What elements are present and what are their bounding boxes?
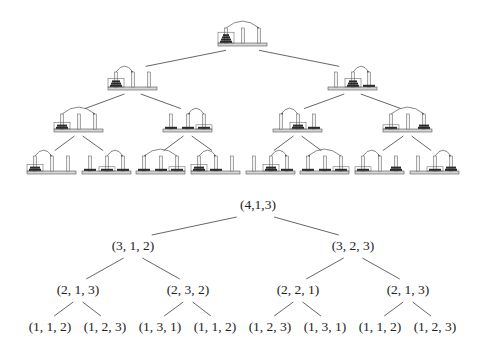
move-arrow	[107, 150, 123, 156]
disk	[357, 169, 369, 171]
disk	[347, 85, 359, 87]
disk	[138, 169, 150, 171]
tree-edge	[55, 136, 75, 151]
disk	[110, 85, 122, 87]
disk	[390, 169, 402, 171]
tree-node-label: (1, 1, 2)	[359, 319, 402, 334]
move-arrow	[144, 149, 177, 156]
disk	[220, 41, 232, 43]
peg	[450, 156, 453, 171]
tree-edge	[83, 302, 101, 316]
tree-node-label: (2, 1, 3)	[57, 282, 100, 297]
tower-base	[410, 171, 459, 174]
disk	[419, 125, 429, 127]
disk	[418, 127, 430, 129]
move-arrow	[199, 150, 216, 156]
peg	[286, 156, 289, 171]
disk	[111, 83, 121, 85]
tower-state	[54, 107, 103, 132]
tower-state	[108, 66, 157, 90]
peg	[51, 156, 54, 171]
tower-base	[218, 43, 267, 46]
disk	[56, 127, 68, 129]
disk	[266, 167, 276, 169]
tree-edge	[54, 302, 73, 316]
tree-node-label: (1, 1, 2)	[29, 319, 72, 334]
disk	[165, 127, 177, 129]
tree-edge	[152, 217, 237, 235]
tower-base	[136, 171, 185, 174]
tree-edge	[274, 217, 339, 235]
disk	[117, 169, 129, 171]
peg	[132, 72, 135, 87]
tower-base	[54, 129, 103, 132]
tower-state	[218, 21, 267, 46]
tree-edge	[192, 136, 212, 151]
tree-edge	[274, 136, 294, 151]
peg	[187, 114, 190, 129]
tower-state	[163, 108, 212, 132]
disk	[198, 127, 210, 129]
disk	[445, 169, 457, 171]
tree-node-label: (1, 3, 1)	[139, 319, 182, 334]
tree-node-label: (2, 3, 2)	[167, 282, 210, 297]
tower-base	[246, 171, 295, 174]
tree-node-label: (2, 2, 1)	[277, 282, 320, 297]
tree-edge	[362, 258, 399, 279]
peg	[89, 156, 92, 171]
peg	[280, 114, 283, 129]
disk	[391, 167, 401, 169]
disk	[155, 169, 167, 171]
disk	[193, 169, 205, 171]
tree-node-label: (4,1,3)	[240, 197, 276, 212]
peg	[335, 72, 338, 87]
disk	[335, 169, 347, 171]
tower-base	[355, 171, 404, 174]
peg	[258, 28, 261, 43]
disk	[265, 169, 277, 171]
peg	[242, 28, 245, 43]
disk	[281, 169, 293, 171]
tower-state	[355, 150, 404, 174]
tower-base	[273, 129, 322, 132]
tree-node-label: (1, 3, 1)	[304, 319, 347, 334]
tree-edge	[304, 94, 344, 109]
peg	[423, 114, 426, 129]
disk	[292, 127, 304, 129]
tree-edge	[259, 50, 339, 66]
disk	[385, 127, 397, 129]
tower-base	[163, 129, 212, 132]
tower-state	[328, 66, 377, 90]
tower-state	[27, 150, 76, 174]
tree-edge	[146, 50, 226, 66]
tree-edge	[361, 94, 401, 109]
tower-state	[82, 150, 131, 174]
peg	[198, 156, 201, 171]
peg	[61, 114, 64, 129]
peg	[379, 156, 382, 171]
disk	[293, 125, 303, 127]
tree-edge	[83, 136, 103, 151]
tower-state	[191, 150, 240, 174]
peg	[307, 156, 310, 171]
tower-base	[27, 171, 76, 174]
tower-state	[300, 149, 349, 174]
tree-edge	[302, 136, 322, 151]
peg	[340, 156, 343, 171]
peg	[115, 72, 118, 87]
peg	[362, 156, 365, 171]
peg	[417, 156, 420, 171]
move-arrow	[35, 150, 52, 156]
tower-state	[136, 149, 185, 174]
tree-edge	[412, 136, 432, 151]
move-arrow	[281, 108, 298, 114]
disk	[222, 36, 230, 38]
tower-base	[328, 87, 377, 90]
tree-edge	[141, 94, 181, 109]
disk	[446, 167, 456, 169]
tree-edge	[193, 302, 211, 316]
peg	[78, 114, 81, 129]
picture-tree	[27, 21, 459, 174]
move-arrow	[353, 66, 369, 72]
disk	[112, 80, 120, 82]
